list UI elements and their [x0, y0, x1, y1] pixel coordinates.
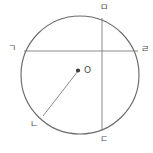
geometry-figure: ㄱ ㄹ ㅁ ㄷ ㄴ O	[0, 0, 153, 153]
label-digeut: ㄷ	[100, 135, 108, 144]
label-nieun: ㄴ	[30, 120, 38, 129]
center-point-dot	[76, 68, 80, 72]
label-center-o: O	[84, 66, 91, 75]
geometry-canvas	[0, 0, 153, 153]
label-giyeok: ㄱ	[8, 44, 16, 53]
label-rieul: ㄹ	[141, 45, 149, 54]
radius-segment-line	[43, 71, 78, 116]
label-mieum: ㅁ	[100, 3, 108, 12]
main-circle	[21, 16, 139, 134]
